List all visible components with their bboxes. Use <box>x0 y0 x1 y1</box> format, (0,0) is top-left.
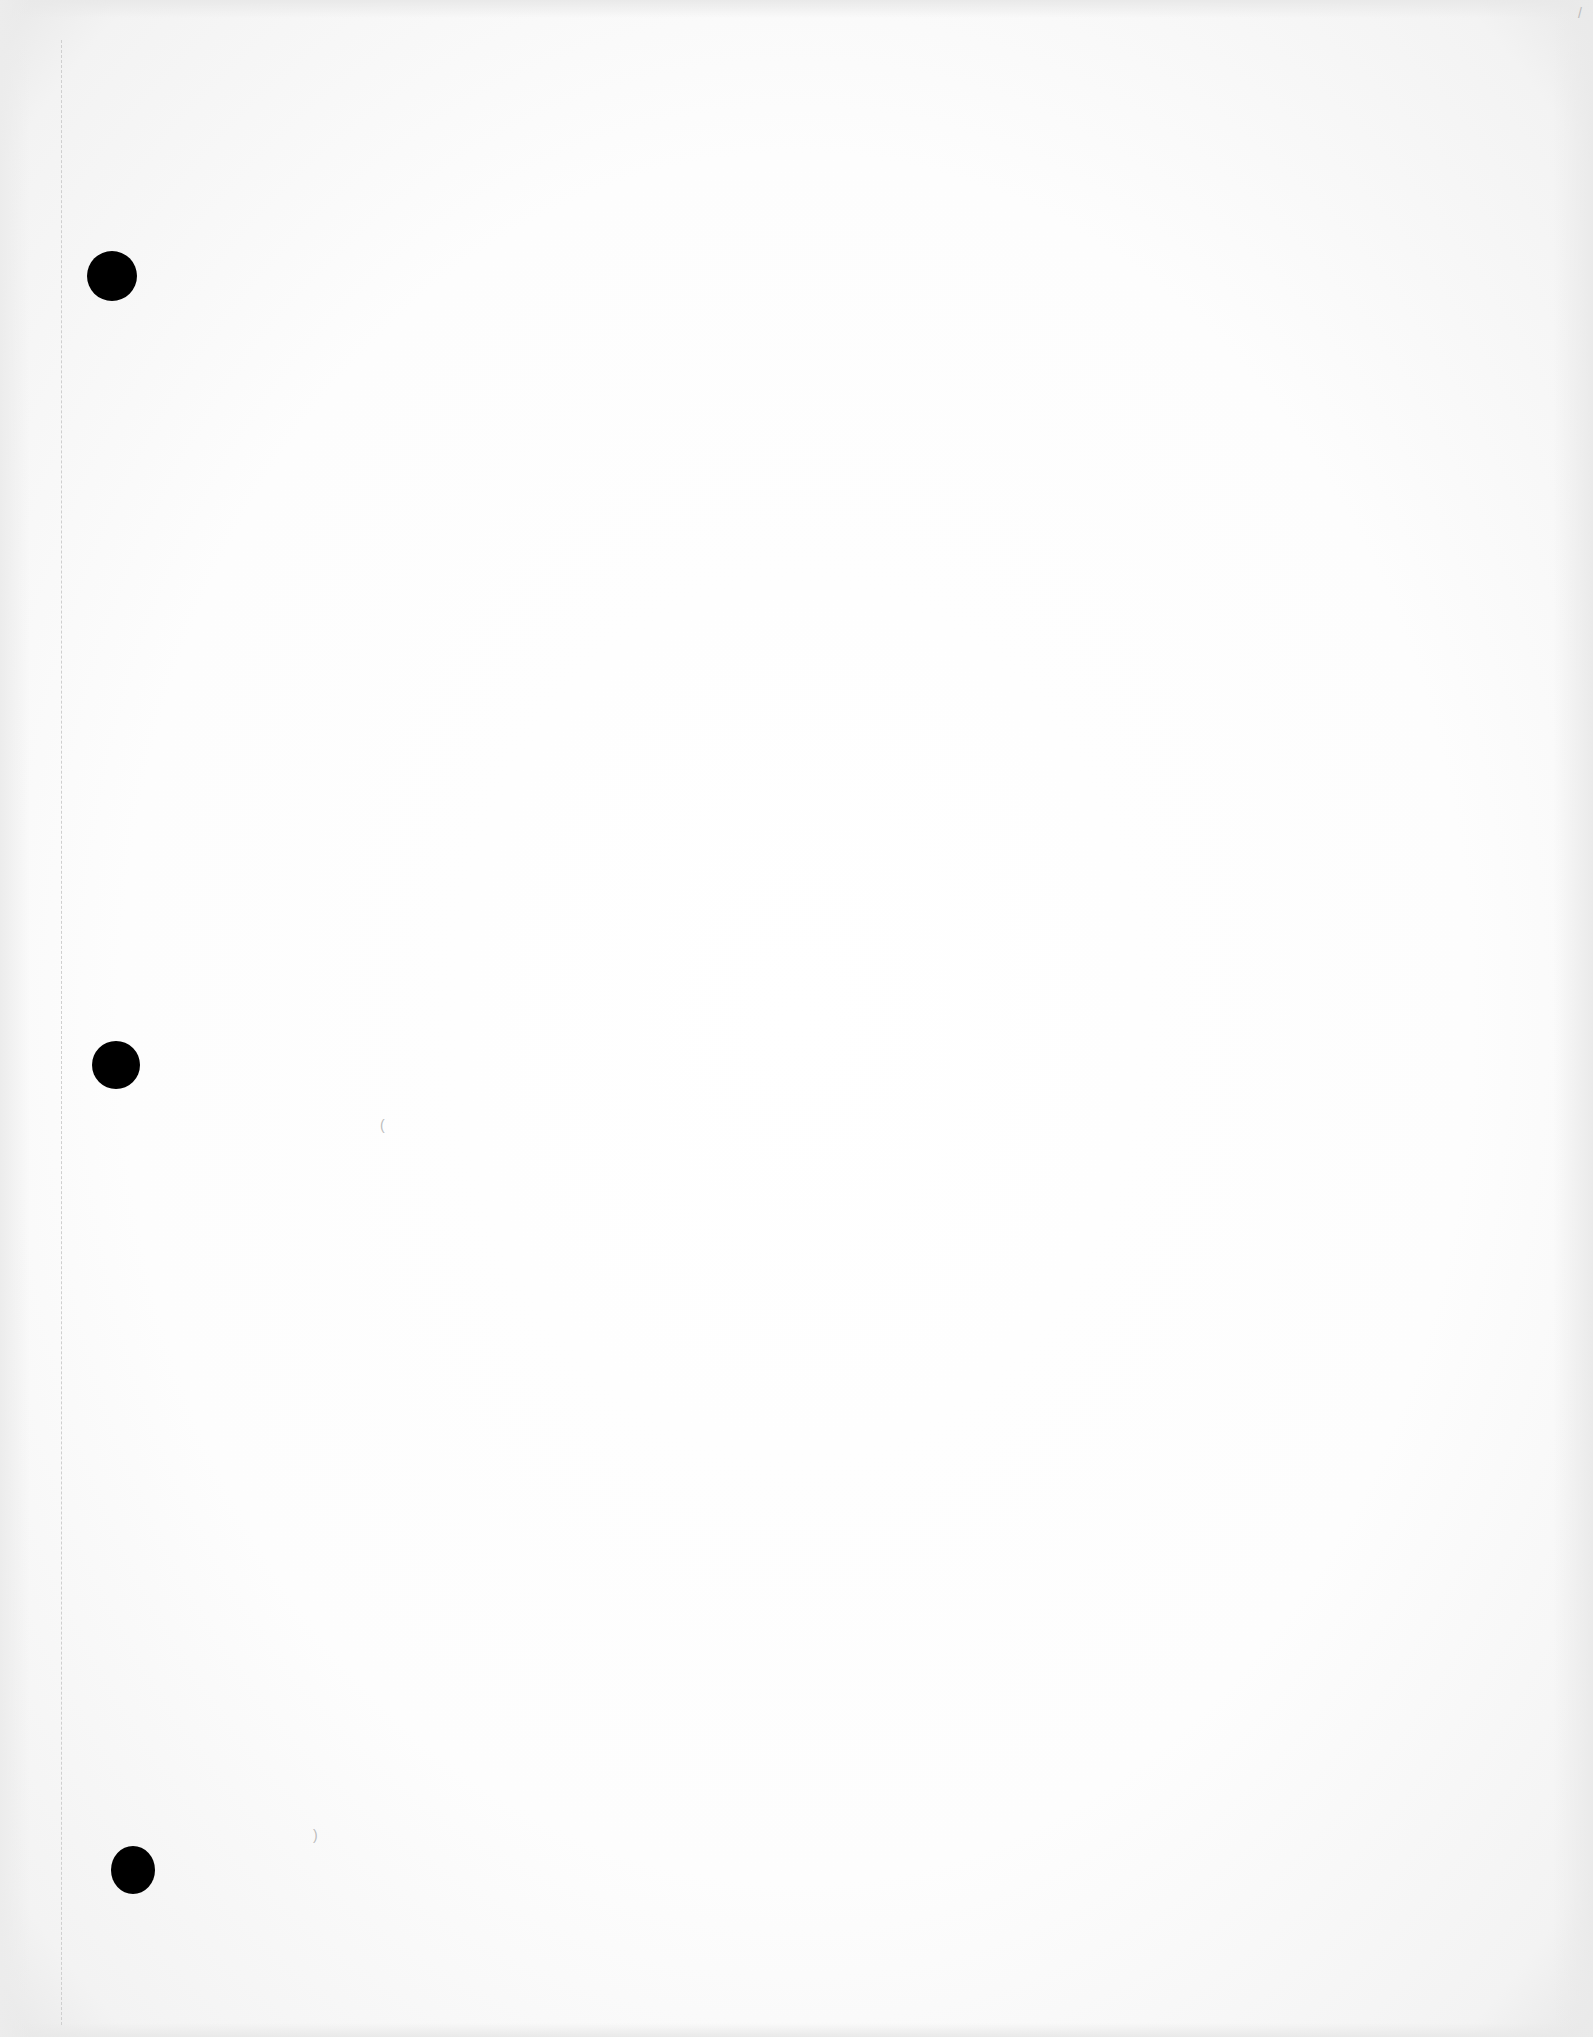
scan-speck: ( <box>380 1118 385 1132</box>
scan-speck: / <box>1578 6 1582 20</box>
blank-page: (/) <box>0 0 1593 2037</box>
page-shadow-bottom <box>0 2023 1593 2037</box>
top-hole <box>87 251 137 301</box>
page-shadow-left <box>0 0 30 2037</box>
page-shadow-top <box>0 0 1593 18</box>
perforation-line <box>61 40 62 2025</box>
page-shadow-right <box>1553 0 1593 2037</box>
middle-hole <box>92 1041 140 1089</box>
bottom-hole <box>111 1846 155 1894</box>
scan-speck: ) <box>313 1828 318 1842</box>
